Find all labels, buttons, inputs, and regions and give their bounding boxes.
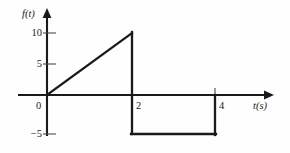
x-axis-arrowhead — [264, 91, 274, 100]
curve-segment-ramp — [47, 33, 132, 95]
x-axis-label: t(s) — [253, 101, 267, 112]
function-plot-figure: 10 5 −5 0 2 4 f(t) t(s) — [0, 0, 290, 153]
x-tick-label-2: 2 — [136, 101, 141, 112]
origin-tick-label: 0 — [36, 101, 41, 112]
function-curve-group — [47, 32, 216, 135]
axes-group — [18, 8, 274, 136]
y-tick-label-5: 5 — [37, 59, 42, 70]
y-tick-label-10: 10 — [32, 28, 43, 39]
tick-marks-group — [43, 33, 215, 134]
y-axis-arrowhead — [43, 8, 52, 18]
y-axis-label: f(t) — [22, 9, 35, 20]
y-tick-label-neg5: −5 — [31, 129, 42, 140]
x-tick-label-4: 4 — [219, 101, 224, 112]
plot-svg — [0, 0, 290, 153]
